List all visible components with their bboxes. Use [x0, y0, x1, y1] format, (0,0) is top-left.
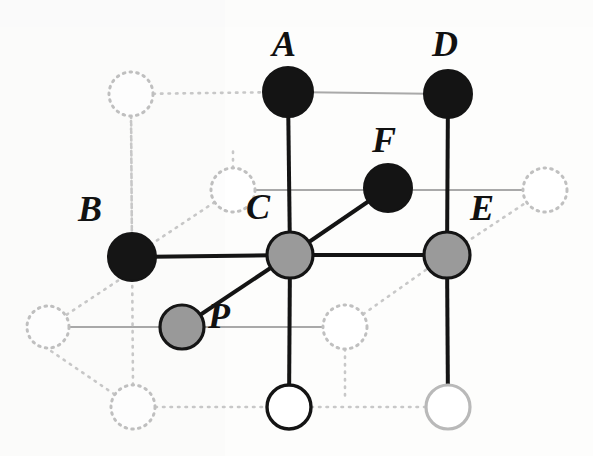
- label-E: E: [470, 190, 494, 226]
- label-A: A: [272, 26, 296, 62]
- node-P[interactable]: [160, 305, 204, 349]
- node-D[interactable]: [424, 70, 472, 118]
- label-P: P: [208, 298, 230, 334]
- node-A[interactable]: [263, 67, 313, 117]
- ghost-node-g4: [27, 306, 69, 348]
- ghost-node-g5: [323, 305, 367, 349]
- label-F: F: [372, 122, 396, 158]
- ghost-node-g3: [523, 168, 567, 212]
- node-white-bottom-right[interactable]: [426, 385, 470, 429]
- lattice-figure: A D F B C E P: [0, 0, 593, 456]
- node-white-bottom-left[interactable]: [267, 385, 311, 429]
- label-B: B: [78, 191, 102, 227]
- ghost-node-g6: [111, 385, 155, 429]
- ghost-node-g1: [109, 72, 153, 116]
- node-C[interactable]: [267, 232, 313, 278]
- label-C: C: [246, 189, 270, 225]
- node-B[interactable]: [108, 233, 156, 281]
- label-D: D: [432, 26, 458, 62]
- node-F[interactable]: [364, 164, 412, 212]
- node-E[interactable]: [424, 232, 470, 278]
